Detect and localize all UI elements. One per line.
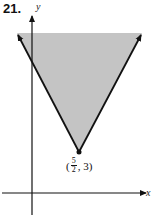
graph	[0, 0, 152, 215]
vertex-label: ( 5 2 , 3)	[66, 157, 92, 174]
frac-num: 5	[72, 157, 76, 165]
vertex-point	[77, 150, 82, 155]
vertex-open: (	[66, 160, 70, 172]
frac-den: 2	[72, 166, 76, 174]
x-axis-label: x	[146, 187, 150, 198]
problem-number: 21.	[3, 1, 21, 16]
vertex-fraction: 5 2	[71, 157, 77, 174]
y-axis-label: y	[36, 1, 40, 12]
vertex-rest: , 3)	[78, 160, 93, 172]
shaded-region	[17, 33, 142, 152]
